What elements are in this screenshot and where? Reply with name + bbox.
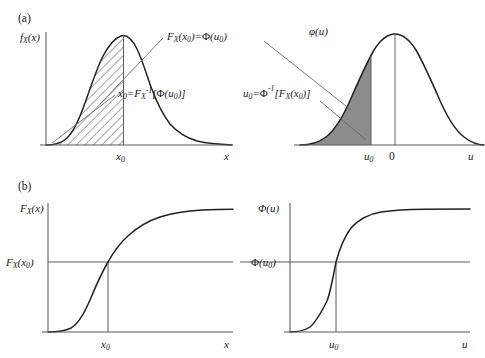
chart-cdf-x: FX(x) FX(x0) x0 x (5, 202, 233, 352)
pdf-x-x-axis-label: x (223, 150, 229, 162)
cdf-x-y-tick-label: FX(x0) (5, 256, 34, 270)
chart-cdf-u: Φ(u) Φ(u0) u0 u (240, 202, 470, 352)
pdf-u-y-axis-label: φ(u) (309, 25, 328, 38)
pdf-x-shaded-area (46, 35, 124, 145)
panel-label-b: (b) (18, 180, 32, 193)
panel-label-a: (a) (18, 12, 31, 25)
annotation-equality-label: FX(x0)=Φ(u0) (166, 30, 227, 44)
cdf-u-x-tick-label: u0 (329, 338, 339, 352)
cdf-x-x-tick-label: x0 (100, 338, 110, 352)
annotation-u0-inverse-label: u0=Φ-1[FX(x0)] (243, 84, 311, 101)
cdf-u-y-axis-label: Φ(u) (258, 202, 280, 215)
cdf-x-x-axis-label: x (223, 338, 229, 350)
cdf-x-y-axis-label: FX(x) (19, 202, 44, 216)
annotation-x0-inverse-label: x0=FX-1[Φ(u0)] (117, 86, 186, 101)
pdf-x-y-axis-label: fX(x) (20, 31, 40, 45)
pdf-x-tick-x0: x0 (115, 150, 125, 164)
cdf-x-curve (48, 209, 233, 332)
pdf-u-curve (300, 34, 484, 145)
pdf-u-tick-u0: u0 (364, 150, 374, 164)
figure-root: (a) fX(x) x x0 (0, 0, 485, 358)
pdf-u-tick-zero: 0 (389, 150, 395, 162)
pdf-u-shaded-area (300, 57, 371, 145)
chart-pdf-u: φ(u) u u0 0 (294, 25, 484, 164)
figure-svg: (a) fX(x) x x0 (0, 0, 485, 358)
leader-equality-to-pdf-u (264, 41, 351, 110)
cdf-u-curve (290, 209, 470, 332)
cdf-u-y-tick-label: Φ(u0) (251, 256, 276, 270)
pdf-u-x-axis-label: u (468, 150, 474, 162)
cdf-u-x-axis-label: u (462, 338, 468, 350)
